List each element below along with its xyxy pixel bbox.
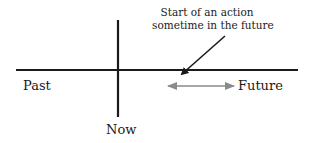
annotation-line-2: sometime in the future <box>152 19 262 32</box>
timeline-diagram: Start of an action sometime in the futur… <box>0 0 315 143</box>
future-label: Future <box>238 79 283 92</box>
annotation-label: Start of an action sometime in the futur… <box>152 6 262 32</box>
past-label: Past <box>23 79 51 92</box>
pointer-arrow-icon <box>182 36 225 74</box>
now-label: Now <box>106 123 136 136</box>
annotation-line-1: Start of an action <box>152 6 262 19</box>
